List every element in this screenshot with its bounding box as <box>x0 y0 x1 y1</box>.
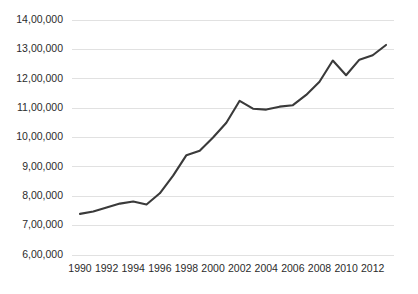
x-axis-tick-label: 1996 <box>148 262 172 274</box>
x-axis-tick-label: 2008 <box>308 262 332 274</box>
y-axis-tick-label: 7,00,000 <box>22 218 63 230</box>
x-axis-tick-label: 2006 <box>281 262 305 274</box>
gridlines <box>72 20 394 255</box>
y-axis-tick-label: 12,00,000 <box>16 72 63 84</box>
x-axis-tick-label: 2000 <box>201 262 225 274</box>
y-axis-tick-label: 14,00,000 <box>16 13 63 25</box>
x-axis-tick-label: 2012 <box>361 262 385 274</box>
x-axis-tick-label: 1992 <box>95 262 119 274</box>
x-axis-tick-label: 1990 <box>68 262 92 274</box>
y-axis-tick-label: 13,00,000 <box>16 42 63 54</box>
y-axis-tick-label: 11,00,000 <box>17 101 63 113</box>
x-axis-tick-label: 2002 <box>228 262 252 274</box>
x-axis-tick-labels: 1990199219941996199820002002200420062008… <box>68 262 384 274</box>
line-chart: 6,00,0007,00,0008,00,0009,00,00010,00,00… <box>0 0 418 294</box>
x-axis-tick-label: 2004 <box>255 262 279 274</box>
chart-canvas: 6,00,0007,00,0008,00,0009,00,00010,00,00… <box>0 0 418 294</box>
y-axis-tick-label: 9,00,000 <box>22 160 63 172</box>
x-axis-tick-label: 2010 <box>334 262 358 274</box>
y-axis-tick-label: 8,00,000 <box>22 189 63 201</box>
y-axis-tick-label: 6,00,000 <box>22 248 63 260</box>
y-axis-tick-label: 10,00,000 <box>16 130 63 142</box>
y-axis-tick-labels: 6,00,0007,00,0008,00,0009,00,00010,00,00… <box>16 13 63 260</box>
data-series <box>80 45 386 214</box>
x-axis-tick-label: 1994 <box>122 262 146 274</box>
series-line <box>80 45 386 214</box>
x-axis-tick-label: 1998 <box>175 262 199 274</box>
